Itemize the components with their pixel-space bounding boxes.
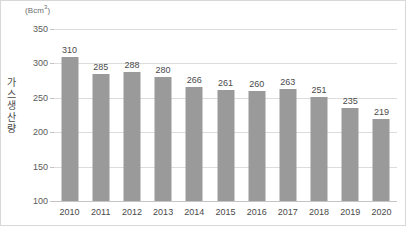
x-axis-category-label: 2012	[122, 207, 142, 217]
bar[interactable]	[123, 72, 140, 201]
bar-group[interactable]: 288	[123, 29, 140, 201]
x-axis-category-label: 2010	[60, 207, 80, 217]
bar[interactable]	[92, 74, 109, 201]
bar[interactable]	[186, 87, 203, 201]
bar[interactable]	[342, 108, 359, 201]
bar-group[interactable]: 266	[186, 29, 203, 201]
x-axis-category-label: 2019	[340, 207, 360, 217]
bar[interactable]	[373, 119, 390, 201]
bar[interactable]	[311, 97, 328, 201]
unit-label-close: )	[48, 6, 51, 15]
plot-area: 3503002502001501003102852882802662612602…	[54, 29, 397, 201]
x-axis-category-label: 2020	[371, 207, 391, 217]
y-axis-tick-label: 200	[33, 127, 48, 137]
y-axis-tick-mark	[50, 201, 54, 202]
bar-value-label: 288	[124, 60, 139, 70]
bar-group[interactable]: 263	[279, 29, 296, 201]
y-axis-tick-mark	[50, 167, 54, 168]
y-axis-tick-label: 100	[33, 196, 48, 206]
bar-group[interactable]: 280	[155, 29, 172, 201]
x-axis-category-label: 2014	[184, 207, 204, 217]
bar-value-label: 261	[218, 78, 233, 88]
x-axis-category-label: 2013	[153, 207, 173, 217]
bar-group[interactable]: 235	[342, 29, 359, 201]
bar[interactable]	[248, 91, 265, 201]
bar-value-label: 266	[187, 75, 202, 85]
y-axis-tick-label: 350	[33, 24, 48, 34]
bar-group[interactable]: 260	[248, 29, 265, 201]
y-axis-tick-mark	[50, 63, 54, 64]
y-axis-tick-label: 250	[33, 93, 48, 103]
bar[interactable]	[61, 57, 78, 201]
bar-value-label: 285	[93, 62, 108, 72]
x-axis-category-label: 2016	[247, 207, 267, 217]
x-axis-category-label: 2015	[215, 207, 235, 217]
y-axis-tick-mark	[50, 29, 54, 30]
unit-label-text: (Bcm	[25, 6, 44, 15]
bar-group[interactable]: 261	[217, 29, 234, 201]
bar-group[interactable]: 310	[61, 29, 78, 201]
gridline	[54, 201, 397, 202]
y-axis-tick-mark	[50, 132, 54, 133]
bar-value-label: 219	[374, 107, 389, 117]
x-axis-category-label: 2017	[278, 207, 298, 217]
bar-group[interactable]: 219	[373, 29, 390, 201]
x-axis-category-label: 2018	[309, 207, 329, 217]
y-axis-tick-mark	[50, 98, 54, 99]
bar[interactable]	[155, 77, 172, 201]
y-axis-tick-label: 150	[33, 162, 48, 172]
bar-value-label: 280	[156, 65, 171, 75]
bar[interactable]	[217, 90, 234, 201]
x-axis-category-label: 2011	[91, 207, 110, 217]
bar-value-label: 251	[312, 85, 327, 95]
y-axis-tick-label: 300	[33, 58, 48, 68]
bar-value-label: 310	[62, 45, 77, 55]
bar-value-label: 263	[280, 77, 295, 87]
bar-group[interactable]: 251	[311, 29, 328, 201]
unit-label: (Bcm3)	[25, 6, 50, 15]
y-axis-title: 가스 생산량	[4, 77, 18, 135]
bar-chart-figure: (Bcm3) 가스 생산량 35030025020015010031028528…	[0, 0, 406, 226]
bar[interactable]	[279, 89, 296, 201]
bar-value-label: 235	[343, 96, 358, 106]
bar-group[interactable]: 285	[92, 29, 109, 201]
bar-value-label: 260	[249, 79, 264, 89]
